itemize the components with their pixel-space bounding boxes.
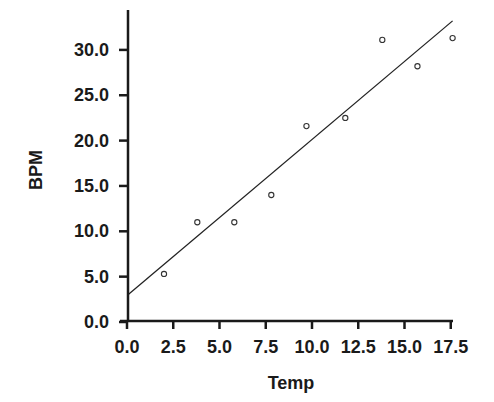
scatter-chart: 0.02.55.07.510.012.515.017.5 0.05.010.01… bbox=[0, 0, 494, 402]
y-tick-label: 15.0 bbox=[74, 176, 109, 196]
data-point bbox=[450, 36, 455, 41]
data-point bbox=[343, 115, 348, 120]
y-axis-title: BPM bbox=[26, 150, 46, 190]
y-tick-label: 20.0 bbox=[74, 131, 109, 151]
y-tick-label: 30.0 bbox=[74, 40, 109, 60]
data-point bbox=[161, 271, 166, 276]
data-point bbox=[232, 220, 237, 225]
y-tick-label: 25.0 bbox=[74, 85, 109, 105]
x-tick-label: 17.5 bbox=[433, 337, 468, 357]
y-tick-label: 0.0 bbox=[84, 312, 109, 332]
data-point bbox=[195, 220, 200, 225]
plot-area bbox=[128, 21, 455, 295]
x-tick-label: 2.5 bbox=[161, 337, 186, 357]
data-point bbox=[415, 64, 420, 69]
axes bbox=[120, 10, 453, 322]
x-tick-label: 10.0 bbox=[294, 337, 329, 357]
data-point bbox=[380, 37, 385, 42]
y-axis-ticks: 0.05.010.015.020.025.030.0 bbox=[74, 40, 128, 332]
x-tick-label: 0.0 bbox=[114, 337, 139, 357]
data-point bbox=[304, 123, 309, 128]
data-point bbox=[269, 192, 274, 197]
y-tick-label: 10.0 bbox=[74, 221, 109, 241]
x-axis-title: Temp bbox=[268, 373, 315, 393]
y-tick-label: 5.0 bbox=[84, 267, 109, 287]
x-tick-label: 12.5 bbox=[341, 337, 376, 357]
regression-line bbox=[128, 21, 453, 295]
x-tick-label: 7.5 bbox=[253, 337, 278, 357]
x-tick-label: 15.0 bbox=[387, 337, 422, 357]
x-tick-label: 5.0 bbox=[207, 337, 232, 357]
x-axis-ticks: 0.02.55.07.510.012.515.017.5 bbox=[114, 321, 468, 357]
